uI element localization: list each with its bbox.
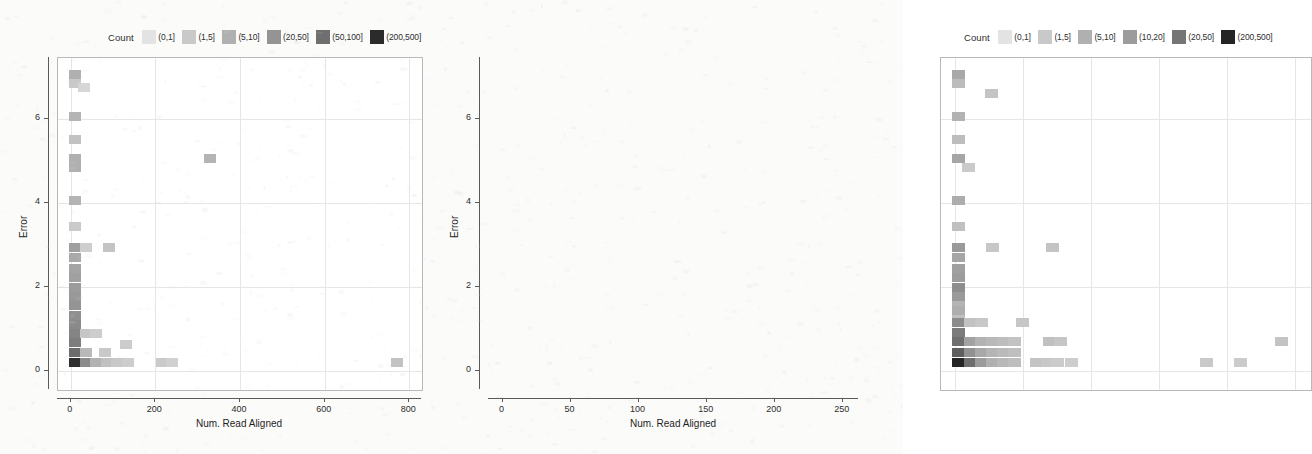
legend-swatch-icon — [1078, 30, 1092, 44]
heatmap-cell — [952, 337, 965, 346]
x-axis-tick-label: 600 — [304, 404, 344, 414]
heatmap-cell — [69, 301, 81, 310]
y-axis-tick — [44, 118, 48, 119]
heatmap-cell — [90, 329, 102, 338]
x-axis-line — [488, 398, 858, 399]
legend-item: (1,5] — [182, 30, 219, 44]
heatmap-cell — [69, 222, 81, 231]
x-axis-tick — [70, 398, 71, 402]
x-axis-tick — [706, 398, 707, 402]
y-axis-tick — [475, 286, 479, 287]
heatmap-cell — [952, 79, 965, 88]
heatmap-cell — [1046, 243, 1059, 252]
heatmap-cell — [952, 283, 965, 292]
heatmap-cell — [952, 264, 965, 273]
gridline-vertical — [1227, 58, 1228, 390]
heatmap-cell — [69, 112, 81, 121]
heatmap-cell — [69, 311, 81, 320]
heatmap-cell — [99, 348, 111, 357]
legend-swatch-icon — [1038, 30, 1052, 44]
heatmap-cell — [69, 135, 81, 144]
x-axis-title: Num. Read Aligned — [623, 418, 723, 429]
heatmap-cell — [952, 222, 965, 231]
y-axis-tick — [475, 202, 479, 203]
legend-label: (5,10] — [1094, 32, 1115, 42]
gridline-vertical — [325, 58, 326, 390]
gridline-vertical — [1091, 58, 1092, 390]
heatmap-cell — [69, 264, 81, 273]
heatmap-cell — [122, 358, 134, 367]
legend-swatch-icon — [998, 30, 1012, 44]
legend-item: (10,20] — [1123, 30, 1169, 44]
x-axis-tick-label: 200 — [754, 404, 794, 414]
y-axis-tick-label: 4 — [18, 196, 40, 206]
y-axis-tick-label: 2 — [449, 280, 471, 290]
heatmap-cell — [952, 243, 965, 252]
heatmap-cell — [1016, 318, 1029, 327]
x-axis-tick — [842, 398, 843, 402]
heatmap-cell — [952, 318, 965, 327]
heatmap-cell — [391, 358, 403, 367]
legend-item: (20,50] — [267, 30, 313, 44]
heatmap-cell — [78, 83, 90, 92]
legend-swatch-icon — [1221, 30, 1235, 44]
legend-swatch-icon — [267, 30, 281, 44]
gridline-horizontal — [58, 203, 422, 204]
y-axis-title: Error — [449, 216, 460, 238]
x-axis-title: Num. Read Aligned — [189, 418, 289, 429]
heatmap-cell — [80, 243, 92, 252]
heatmap-cell — [952, 135, 965, 144]
gridline-horizontal — [941, 371, 1311, 372]
heatmap-cell — [120, 340, 132, 349]
heatmap-cell — [986, 243, 999, 252]
heatmap-cell — [952, 328, 965, 337]
plot-area-left — [57, 57, 423, 391]
gridline-horizontal — [58, 287, 422, 288]
legend-label: (1,5] — [198, 32, 215, 42]
x-axis-tick-label: 100 — [618, 404, 658, 414]
plot-area-right — [940, 57, 1312, 391]
legend-title: Count — [964, 32, 990, 43]
gridline-vertical — [1159, 58, 1160, 390]
heatmap-cell — [975, 318, 988, 327]
y-axis-tick-label: 6 — [18, 112, 40, 122]
heatmap-cell — [103, 243, 115, 252]
heatmap-cell — [69, 163, 81, 172]
x-axis-tick-label: 200 — [134, 404, 174, 414]
gridline-horizontal — [58, 371, 422, 372]
legend-item: (5,10] — [1078, 30, 1120, 44]
legend-item: (0,1] — [142, 30, 179, 44]
gridline-horizontal — [941, 203, 1311, 204]
gridline-horizontal — [58, 119, 422, 120]
gridline-horizontal — [941, 287, 1311, 288]
heatmap-cell — [69, 273, 81, 282]
heatmap-cell — [952, 112, 965, 121]
heatmap-cell — [1234, 358, 1247, 367]
y-axis-line — [48, 57, 49, 389]
y-axis-title: Error — [18, 216, 29, 238]
x-axis-tick-label: 0 — [50, 404, 90, 414]
y-axis-tick-label: 0 — [18, 364, 40, 374]
legend-swatch-icon — [1123, 30, 1137, 44]
legend-item: (5,10] — [222, 30, 264, 44]
chart-panel-right: Count (0,1] (1,5] (5,10] (10,20] (20,50]… — [452, 0, 903, 454]
gridline-vertical — [1295, 58, 1296, 390]
heatmap-cell — [952, 348, 965, 357]
legend-right: Count (0,1] (1,5] (5,10] (10,20] (20,50]… — [964, 28, 1277, 46]
heatmap-cell — [166, 358, 178, 367]
legend-swatch-icon — [1172, 30, 1186, 44]
y-axis-tick — [44, 286, 48, 287]
heatmap-cell — [952, 292, 965, 301]
heatmap-cell — [69, 338, 81, 347]
legend-label: (0,1] — [158, 32, 175, 42]
legend-title: Count — [108, 32, 134, 43]
heatmap-cell — [1275, 337, 1288, 346]
chart-panel-left: Count (0,1] (1,5] (5,10] (20,50] (50,100… — [0, 0, 451, 454]
heatmap-cell — [69, 292, 81, 301]
heatmap-cell — [952, 273, 965, 282]
legend-label: (200,500] — [1238, 32, 1273, 42]
x-axis-tick — [502, 398, 503, 402]
y-axis-tick — [44, 370, 48, 371]
legend-label: (50,100] — [332, 32, 362, 42]
legend-swatch-icon — [370, 30, 384, 44]
